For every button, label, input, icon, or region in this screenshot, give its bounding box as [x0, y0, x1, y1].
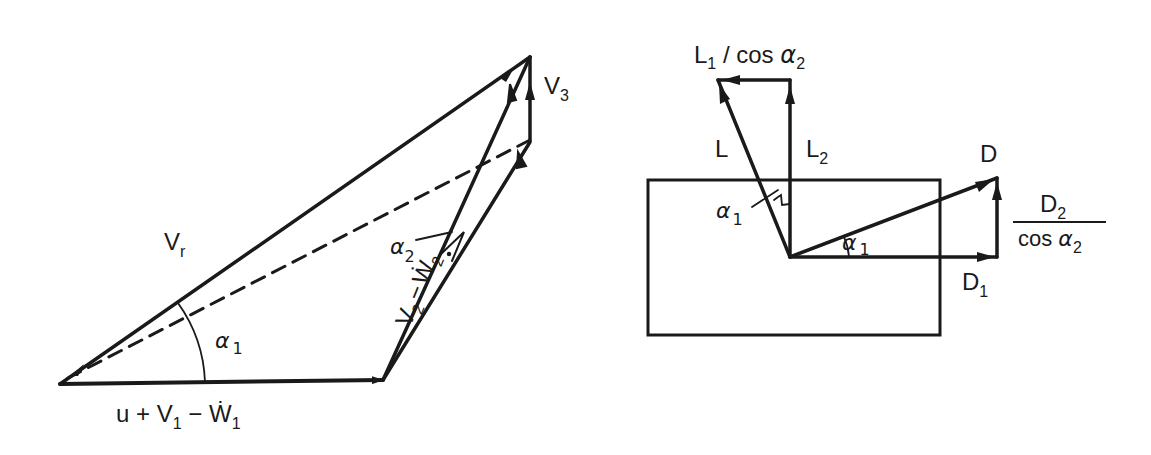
label-d2-over-cos-alpha2: D2 cos α2 [1013, 190, 1106, 256]
v3-arrowhead-icon [525, 82, 535, 100]
alpha1-right-angle-mark [774, 195, 790, 205]
vector-l [718, 80, 790, 257]
label-alpha1-d: α1 [842, 230, 870, 259]
label-alpha1-left: α1 [215, 328, 243, 358]
velocity-triangle-diagram [60, 57, 535, 384]
force-decomposition-diagram [648, 75, 1002, 335]
vector-u-v1-w1 [60, 380, 383, 384]
figure-canvas: Vr V3 α1 α2 V2−Ẇ2 u + V1 − Ẇ1 [0, 0, 1151, 455]
label-v3: V3 [544, 72, 569, 104]
l2-arrowhead-icon [785, 86, 795, 104]
d-arrowhead-icon [975, 179, 994, 192]
label-d1: D1 [962, 268, 988, 300]
label-l: L [715, 135, 728, 162]
vector-v2 [383, 57, 530, 380]
vector-d [790, 178, 997, 257]
dashed-resultant [68, 140, 530, 378]
svg-text:cos α2: cos α2 [1018, 226, 1082, 256]
vector-vr [60, 57, 530, 384]
label-u-v1-w1: u + V1 − Ẇ1 [116, 400, 241, 432]
svg-text:D2: D2 [1040, 190, 1066, 222]
label-vr: Vr [164, 228, 186, 260]
alpha2-dot [447, 252, 451, 256]
l1cos-arrowhead-icon [722, 75, 740, 85]
label-alpha1-l: α1 [716, 198, 743, 229]
d1-arrowhead-icon [977, 252, 995, 262]
label-l1-cos-alpha2: L1 / cos α2 [694, 41, 805, 72]
label-l2: L2 [806, 135, 828, 167]
label-alpha2: α2 [390, 234, 415, 266]
label-d: D [980, 140, 997, 167]
d2-arrowhead-icon [992, 182, 1002, 200]
